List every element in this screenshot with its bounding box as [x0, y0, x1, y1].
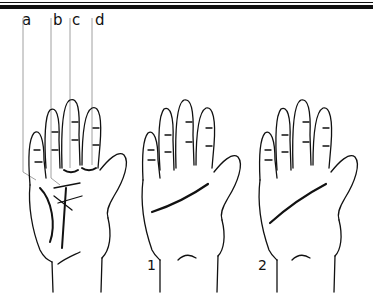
hand-2: [259, 100, 357, 292]
hand-reference: [29, 100, 127, 292]
hands-illustration: [0, 0, 373, 295]
hand-1: [142, 100, 240, 292]
